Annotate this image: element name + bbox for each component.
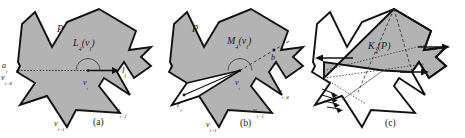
label-vi-plus-1-a: vi+1 bbox=[116, 107, 127, 115]
label-polygon-P-b: P bbox=[192, 24, 198, 34]
caption-a: (a) bbox=[93, 118, 104, 128]
label-ri: ri bbox=[177, 101, 182, 109]
vertex-dot-bi bbox=[273, 49, 276, 52]
label-region-K4P-main: K bbox=[368, 40, 375, 51]
label-vi-b: vi bbox=[235, 79, 240, 87]
small-arrow-cluster-c bbox=[322, 89, 343, 113]
label-li: li bbox=[122, 66, 126, 75]
label-vi-minus-4: vi−4 bbox=[1, 74, 12, 82]
label-region-M4vi-end: ) bbox=[248, 35, 251, 46]
label-vi-plus-1-b: vi+1 bbox=[253, 107, 264, 115]
polygon-P-b bbox=[169, 9, 303, 127]
label-region-L4vi-tailsub: i bbox=[89, 45, 91, 52]
label-vi-minus-1-b: vi−1 bbox=[206, 121, 217, 129]
label-region-K4P: K4(P) bbox=[368, 41, 391, 51]
label-region-M4vi: M4(vi) bbox=[227, 36, 251, 46]
label-vip1-a-sub: i+1 bbox=[120, 114, 127, 119]
label-region-M4vi-sub: 4 bbox=[235, 43, 238, 50]
label-region-L4vi-end: ) bbox=[91, 37, 94, 48]
arrow-head-right-upper-c bbox=[442, 44, 450, 51]
figure-container: P L4(vi) ai vi−4 vi vi−1 vi+1 li (a) P bbox=[0, 0, 465, 138]
label-ai: ai bbox=[2, 62, 7, 70]
label-region-K4P-sub: 4 bbox=[375, 48, 378, 55]
label-region-L4vi-sub: 4 bbox=[79, 45, 82, 52]
panel-a-drawing bbox=[0, 0, 155, 138]
label-li-sub: i bbox=[125, 73, 127, 79]
caption-c: (c) bbox=[385, 119, 396, 129]
panel-b-drawing bbox=[150, 0, 310, 138]
construction-line-6 bbox=[342, 71, 383, 101]
label-vim1-a-sub: i−1 bbox=[58, 127, 65, 132]
label-bi: bi bbox=[271, 54, 276, 62]
label-region-M4vi-tailsub: i bbox=[246, 43, 248, 50]
label-vi-plus-4: vi+4 bbox=[278, 88, 289, 96]
label-region-L4vi: L4(vi) bbox=[73, 38, 95, 48]
label-region-L4vi-main: L bbox=[73, 37, 79, 48]
vertex-dot-ai bbox=[17, 69, 20, 72]
label-vip1-b-sub: i+1 bbox=[257, 114, 264, 119]
label-polygon-P-a: P bbox=[57, 24, 63, 34]
label-ri-sub: i bbox=[180, 108, 181, 113]
caption-b: (b) bbox=[240, 119, 251, 129]
label-vi-b-sub: i bbox=[239, 86, 240, 91]
vertex-dot-vi-a bbox=[87, 69, 90, 72]
polygon-P-a bbox=[17, 9, 151, 127]
panel-c-drawing bbox=[300, 0, 465, 138]
vertex-dot-vi-b bbox=[239, 69, 242, 72]
label-vi-a-sub: i bbox=[87, 86, 88, 91]
label-vim4-sub: i−4 bbox=[5, 81, 12, 86]
vertex-dot-ri bbox=[183, 94, 186, 97]
label-vi-a: vi bbox=[83, 79, 88, 87]
arrow-head-left-c bbox=[315, 55, 323, 62]
label-vip4-sub: i+4 bbox=[282, 95, 289, 100]
label-vi-minus-1-a: vi−1 bbox=[54, 120, 65, 128]
panel-b: P M4(vi) bi ri vi vi−1 vi+1 vi+4 (b) bbox=[150, 0, 310, 138]
panel-a: P L4(vi) ai vi−4 vi vi−1 vi+1 li (a) bbox=[0, 0, 155, 138]
panel-c: K4(P) (c) bbox=[300, 0, 465, 138]
label-region-K4P-tail: (P) bbox=[378, 40, 391, 51]
label-vim1-b-sub: i−1 bbox=[210, 128, 217, 133]
